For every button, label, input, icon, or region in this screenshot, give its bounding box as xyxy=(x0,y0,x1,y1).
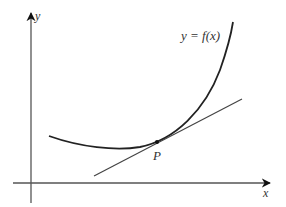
point-p-label: P xyxy=(152,148,161,163)
tangent-diagram: y x P y = f(x) xyxy=(0,0,286,207)
tangent-line xyxy=(94,99,242,176)
y-axis-label: y xyxy=(34,9,41,23)
point-p xyxy=(155,140,159,144)
curve-label: y = f(x) xyxy=(179,28,220,43)
x-axis-label: x xyxy=(262,186,269,200)
